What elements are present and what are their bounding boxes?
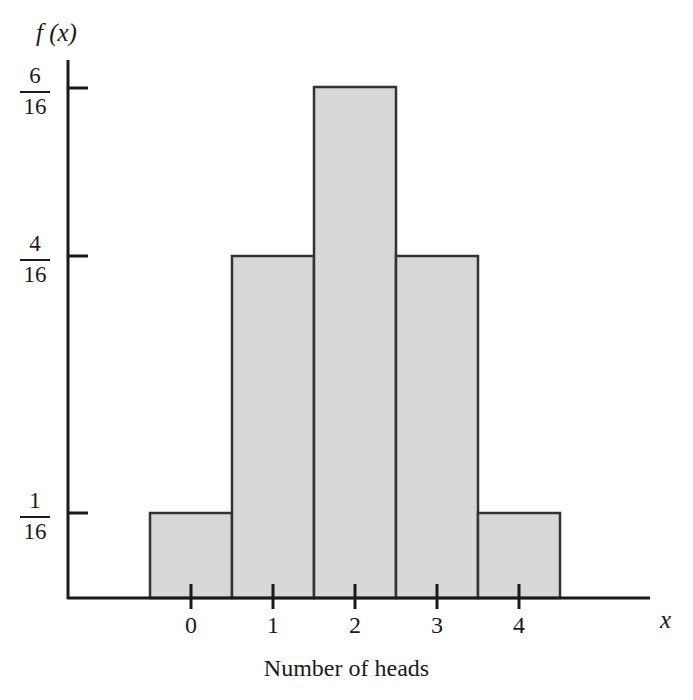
x-tick-label-1: 1 (253, 613, 293, 637)
y-tick-label-4-16: 4 16 (12, 232, 58, 288)
x-axis-label: x (660, 607, 671, 632)
x-tick-label-3: 3 (417, 613, 457, 637)
fraction-rule (20, 516, 50, 518)
y-tick-label-1-16: 1 16 (12, 489, 58, 545)
y-axis-label: f (x) (36, 20, 77, 45)
y-tick-label-1-16-numerator: 1 (12, 489, 58, 514)
y-tick-label-4-16-denominator: 16 (12, 263, 58, 288)
y-tick-label-1-16-denominator: 16 (12, 520, 58, 545)
histogram-figure: f (x) x 6 16 4 16 1 16 0 1 2 3 4 Number … (0, 0, 693, 700)
y-tick-label-6-16-numerator: 6 (12, 64, 58, 89)
bar-category-3 (396, 256, 478, 598)
y-tick-label-6-16: 6 16 (12, 64, 58, 120)
bar-category-2 (314, 87, 396, 598)
chart-caption: Number of heads (0, 655, 693, 682)
x-tick-label-0: 0 (171, 613, 211, 637)
x-tick-label-2: 2 (335, 613, 375, 637)
fraction-rule (20, 259, 50, 261)
y-tick-label-4-16-numerator: 4 (12, 232, 58, 257)
y-tick-label-6-16-denominator: 16 (12, 95, 58, 120)
x-tick-label-4: 4 (499, 613, 539, 637)
fraction-rule (20, 91, 50, 93)
bar-category-1 (232, 256, 314, 598)
histogram-svg (0, 0, 693, 700)
